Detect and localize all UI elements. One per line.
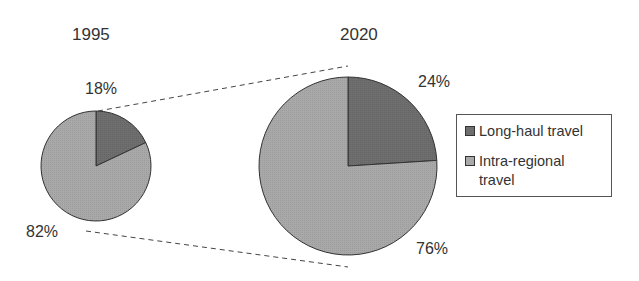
legend-label-intra-regional: Intra-regional travel (479, 152, 589, 190)
pie-1995-title: 1995 (72, 25, 110, 45)
pie-1995-long-haul-label: 18% (85, 80, 117, 98)
pie-2020-long-haul-label: 24% (418, 73, 450, 91)
pie-2020-intra-regional-label: 76% (416, 240, 448, 258)
pie-2020 (259, 77, 437, 255)
pie-1995-intra-regional-label: 82% (26, 223, 58, 241)
legend-swatch-intra-regional (465, 156, 475, 166)
pie-2020-title: 2020 (340, 25, 378, 45)
legend-swatch-long-haul (465, 126, 475, 136)
chart-legend: Long-haul travel Intra-regional travel (456, 114, 612, 197)
pie-1995 (41, 111, 151, 221)
legend-label-long-haul: Long-haul travel (479, 122, 609, 141)
